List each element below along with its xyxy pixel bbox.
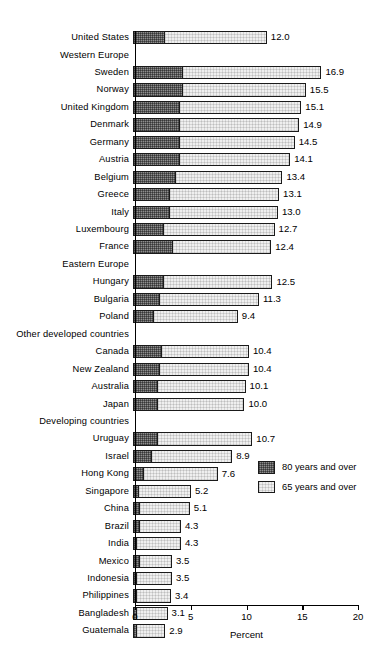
chart-legend: 80 years and over 65 years and over — [258, 461, 356, 500]
bar-value-label: 10.0 — [249, 399, 268, 409]
x-tick-label: 15 — [297, 612, 308, 622]
row-label: Israel — [0, 452, 133, 461]
bar-row: Australia10.1 — [0, 378, 377, 395]
x-tick-mark — [247, 605, 248, 610]
bar-segment-65-plus — [173, 240, 271, 253]
x-tick-mark — [191, 605, 192, 610]
bar-row: Philippines3.4 — [0, 587, 377, 604]
stacked-bar — [133, 310, 238, 323]
bar-plot-area: 11.3 — [133, 291, 377, 308]
group-header-row: Developing countries — [0, 413, 377, 430]
row-label: France — [0, 242, 133, 251]
row-label: Canada — [0, 347, 133, 356]
legend-swatch-80-plus-icon — [258, 461, 275, 474]
bar-segment-65-plus — [140, 502, 190, 515]
bar-plot-area: 3.1 — [133, 605, 377, 622]
bar-plot-area: 5.1 — [133, 500, 377, 517]
bar-value-label: 10.1 — [250, 381, 269, 391]
bar-value-label: 5.2 — [195, 486, 208, 496]
bar-plot-area — [133, 413, 377, 430]
bar-value-label: 4.3 — [185, 521, 198, 531]
bar-row: Poland9.4 — [0, 308, 377, 325]
bar-plot-area: 13.4 — [133, 169, 377, 186]
stacked-bar — [133, 223, 275, 236]
x-axis-title: Percent — [135, 629, 358, 640]
y-axis-line — [135, 31, 136, 606]
row-label: Sweden — [0, 68, 133, 77]
bar-segment-65-plus — [183, 83, 306, 96]
bar-value-label: 14.9 — [303, 120, 322, 130]
row-label: Germany — [0, 138, 133, 147]
bar-row: Uruguay10.7 — [0, 430, 377, 447]
bar-segment-80-plus — [133, 153, 180, 166]
bar-segment-65-plus — [165, 31, 266, 44]
row-label: Developing countries — [0, 417, 133, 426]
bar-plot-area: 16.9 — [133, 64, 377, 81]
bar-segment-80-plus — [133, 223, 164, 236]
bar-plot-area: 12.5 — [133, 273, 377, 290]
bar-row: Mexico3.5 — [0, 553, 377, 570]
bar-plot-area: 3.5 — [133, 553, 377, 570]
bar-segment-80-plus — [133, 171, 176, 184]
bar-row: Greece13.1 — [0, 186, 377, 203]
legend-swatch-65-plus-icon — [258, 481, 275, 494]
row-label: Belgium — [0, 173, 133, 182]
bar-plot-area — [133, 46, 377, 63]
bar-segment-80-plus — [133, 275, 164, 288]
row-label: Italy — [0, 208, 133, 217]
bar-value-label: 12.4 — [275, 242, 294, 252]
bar-plot-area: 14.1 — [133, 151, 377, 168]
stacked-bar — [133, 101, 301, 114]
bar-segment-65-plus — [170, 188, 279, 201]
stacked-bar — [133, 607, 168, 620]
row-label: Hong Kong — [0, 469, 133, 478]
bar-row: New Zealand10.4 — [0, 361, 377, 378]
x-tick-label: 5 — [188, 612, 193, 622]
stacked-bar — [133, 293, 259, 306]
bar-plot-area: 10.4 — [133, 361, 377, 378]
row-label: Guatemala — [0, 626, 133, 635]
bar-value-label: 10.4 — [253, 346, 272, 356]
row-label: Singapore — [0, 487, 133, 496]
row-label: Eastern Europe — [0, 260, 133, 269]
bar-segment-65-plus — [180, 118, 299, 131]
bar-row: Canada10.4 — [0, 343, 377, 360]
x-tick-mark — [302, 605, 303, 610]
row-label: New Zealand — [0, 365, 133, 374]
stacked-bar — [133, 275, 272, 288]
bar-segment-65-plus — [180, 153, 290, 166]
stacked-bar — [133, 398, 245, 411]
row-label: Japan — [0, 400, 133, 409]
bar-row: United Kingdom15.1 — [0, 99, 377, 116]
stacked-bar — [133, 572, 172, 585]
bar-plot-area — [133, 326, 377, 343]
stacked-bar — [133, 31, 267, 44]
bar-plot-area: 3.4 — [133, 587, 377, 604]
bar-row: United States12.0 — [0, 29, 377, 46]
row-label: Luxembourg — [0, 225, 133, 234]
group-header-row: Western Europe — [0, 46, 377, 63]
bar-segment-65-plus — [176, 171, 282, 184]
row-label: Indonesia — [0, 574, 133, 583]
row-label: China — [0, 504, 133, 513]
stacked-bar — [133, 467, 218, 480]
bar-segment-65-plus — [180, 101, 302, 114]
bar-value-label: 13.0 — [282, 207, 301, 217]
bar-segment-65-plus — [137, 589, 170, 602]
bar-row: India4.3 — [0, 535, 377, 552]
stacked-bar — [133, 188, 279, 201]
bar-segment-65-plus — [139, 485, 191, 498]
x-tick-label: 20 — [353, 612, 364, 622]
bar-value-label: 15.5 — [310, 85, 329, 95]
bar-segment-65-plus — [152, 450, 232, 463]
bar-value-label: 3.5 — [176, 556, 189, 566]
bar-value-label: 14.5 — [299, 137, 318, 147]
stacked-bar — [133, 537, 181, 550]
x-tick-mark — [358, 605, 359, 610]
bar-value-label: 4.3 — [185, 538, 198, 548]
bar-plot-area: 14.5 — [133, 134, 377, 151]
bar-segment-80-plus — [133, 31, 165, 44]
bar-segment-80-plus — [133, 520, 140, 533]
bar-plot-area: 10.0 — [133, 395, 377, 412]
bar-row: Japan10.0 — [0, 395, 377, 412]
